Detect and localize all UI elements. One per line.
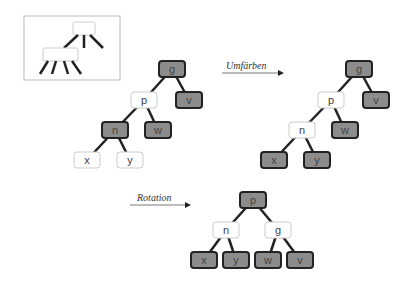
svg-text:x: x [201, 254, 207, 266]
diagram-canvas: g p v n w x y Umfärben g p v n w x y Rot… [0, 0, 415, 289]
node-n: n [213, 222, 239, 238]
svg-text:g: g [356, 63, 362, 75]
node-w: w [145, 122, 171, 138]
svg-text:y: y [127, 154, 133, 166]
svg-text:n: n [112, 124, 118, 136]
svg-text:y: y [314, 154, 320, 166]
svg-text:w: w [153, 124, 162, 136]
node-v: v [363, 92, 389, 108]
svg-text:v: v [373, 94, 379, 106]
node-g: g [265, 222, 291, 238]
node-x: x [261, 152, 287, 168]
node-x: x [74, 152, 100, 168]
tree-before-edges [87, 69, 189, 160]
node-y: y [223, 252, 249, 268]
node-w: w [255, 252, 281, 268]
node-n: n [289, 122, 315, 138]
svg-text:w: w [340, 124, 349, 136]
svg-text:v: v [186, 94, 192, 106]
node-p: p [131, 92, 157, 108]
tree-rotation: p n g x y w v [191, 192, 313, 268]
svg-text:w: w [263, 254, 272, 266]
tree-recolor-edges [274, 69, 376, 160]
legend-box [24, 16, 120, 80]
node-p: p [318, 92, 344, 108]
svg-text:p: p [250, 194, 256, 206]
node-x: x [191, 252, 217, 268]
node-g: g [159, 61, 185, 77]
node-y: y [117, 152, 143, 168]
node-v: v [287, 252, 313, 268]
svg-text:x: x [271, 154, 277, 166]
arrow-rotation: Rotation [130, 192, 191, 208]
svg-text:g: g [169, 63, 175, 75]
node-p: p [240, 192, 266, 208]
node-g: g [346, 61, 372, 77]
node-n: n [102, 122, 128, 138]
node-w: w [332, 122, 358, 138]
svg-text:Rotation: Rotation [136, 192, 171, 203]
svg-text:Umfärben: Umfärben [226, 60, 267, 71]
svg-text:v: v [297, 254, 303, 266]
node-y: y [304, 152, 330, 168]
svg-text:x: x [84, 154, 90, 166]
svg-text:g: g [275, 224, 281, 236]
svg-text:p: p [141, 94, 147, 106]
svg-text:y: y [233, 254, 239, 266]
svg-text:p: p [328, 94, 334, 106]
arrow-recolor: Umfärben [222, 60, 284, 76]
svg-text:n: n [299, 124, 305, 136]
svg-text:n: n [223, 224, 229, 236]
tree-recolor: g p v n w x y [261, 61, 389, 168]
node-v: v [176, 92, 202, 108]
